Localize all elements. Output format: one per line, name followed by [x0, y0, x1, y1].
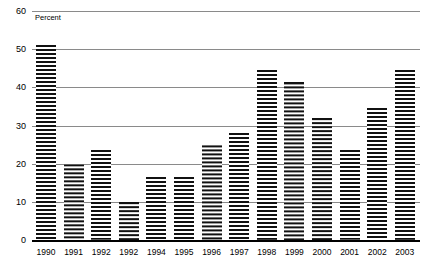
bar	[202, 145, 222, 240]
y-tick-label-20: 20	[0, 160, 26, 169]
bar	[340, 150, 360, 240]
y-tick-label-30: 30	[0, 122, 26, 131]
bar	[257, 70, 277, 240]
bar	[229, 133, 249, 240]
bar	[312, 118, 332, 240]
gridline-0	[32, 240, 420, 242]
y-tick-label-60: 60	[0, 7, 26, 16]
bar	[36, 45, 56, 240]
bar	[64, 164, 84, 240]
bar	[91, 150, 111, 240]
y-tick-label-0: 0	[0, 236, 26, 245]
x-tick-label: 2003	[388, 248, 422, 257]
y-tick-label-40: 40	[0, 83, 26, 92]
bar	[284, 82, 304, 240]
bar	[119, 202, 139, 240]
bar	[146, 177, 166, 240]
bar	[174, 177, 194, 240]
bars-layer	[32, 11, 420, 240]
bar-chart: Percent 19901991199219921994199519961997…	[0, 0, 431, 266]
bar	[367, 108, 387, 240]
y-tick-label-10: 10	[0, 198, 26, 207]
bar	[395, 70, 415, 240]
y-tick-label-50: 50	[0, 45, 26, 54]
